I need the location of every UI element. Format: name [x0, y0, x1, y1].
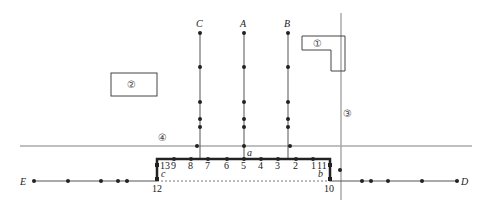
survey-point-dot [242, 117, 246, 121]
point-13-label: 13 [160, 160, 170, 171]
survey-point-dot [242, 144, 246, 148]
survey-point-dot [198, 125, 202, 129]
survey-point-dot [242, 65, 246, 69]
point-6-label: 6 [224, 160, 229, 171]
isolated-point-dot [338, 168, 342, 172]
diagram-canvas: ④ ③ ① ② CAB ED abc 13987654321111210 [0, 0, 484, 210]
building-1-outline [302, 36, 345, 71]
point-13-marker [155, 163, 159, 167]
point-2-label: 2 [293, 160, 298, 171]
numbered-points: 13987654321111210 [152, 157, 334, 194]
point-9-label: 9 [171, 160, 176, 171]
point-11-marker [328, 163, 332, 167]
point-11-label: 11 [317, 160, 327, 171]
survey-point-dot [286, 100, 290, 104]
point-d-label: D [460, 176, 469, 187]
survey-point-dot [286, 65, 290, 69]
point-e-label: E [19, 176, 26, 187]
site-plan-diagram: ④ ③ ① ② CAB ED abc 13987654321111210 [0, 0, 484, 210]
point-12-marker [155, 177, 159, 181]
point-5-label: 5 [241, 160, 246, 171]
point-3-label: 3 [275, 160, 280, 171]
point-10-marker [328, 177, 332, 181]
point-7-label: 7 [205, 160, 210, 171]
survey-point-dot [99, 179, 103, 183]
line-a-label: A [239, 18, 247, 29]
point-10-label: 10 [324, 183, 334, 194]
survey-point-dot [286, 31, 290, 35]
survey-point-dot [242, 125, 246, 129]
road-4-label: ④ [158, 132, 167, 143]
survey-point-dot [32, 179, 36, 183]
point-1-label: 1 [311, 160, 316, 171]
survey-point-dot [198, 65, 202, 69]
survey-point-dot [286, 125, 290, 129]
survey-point-dot [369, 179, 373, 183]
survey-point-dot [198, 117, 202, 121]
survey-point-dot [360, 179, 364, 183]
road-3-label: ③ [343, 108, 352, 119]
survey-point-dot [420, 179, 424, 183]
survey-point-dot [198, 100, 202, 104]
building-1-label: ① [313, 38, 322, 49]
road-crossing-dot [288, 144, 292, 148]
vertical-survey-lines: CAB [195, 18, 292, 159]
frame-a-label: a [247, 147, 252, 158]
survey-point-dot [242, 31, 246, 35]
survey-point-dot [198, 31, 202, 35]
survey-point-dot [242, 100, 246, 104]
survey-point-dot [286, 117, 290, 121]
point-12-label: 12 [152, 183, 162, 194]
survey-point-dot [66, 179, 70, 183]
survey-point-dot [125, 179, 129, 183]
survey-point-dot [455, 179, 459, 183]
point-4-label: 4 [258, 160, 263, 171]
point-8-label: 8 [188, 160, 193, 171]
survey-point-dot [386, 179, 390, 183]
line-c-label: C [196, 18, 203, 29]
road-crossing-dot [195, 144, 199, 148]
survey-point-dot [116, 179, 120, 183]
building-2-label: ② [127, 79, 136, 90]
line-b-label: B [284, 18, 290, 29]
